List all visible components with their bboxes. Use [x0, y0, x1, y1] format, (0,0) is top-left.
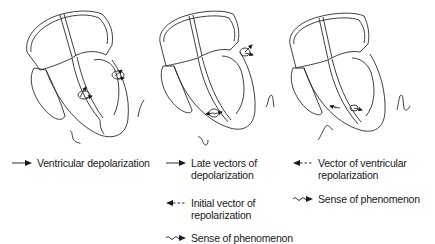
- legend-label: Ventricular depolarization: [37, 157, 150, 169]
- ecg-wave-1a: [138, 100, 144, 117]
- ecg-wave-3b: [397, 95, 410, 110]
- legend-ventricular-depolarization: Ventricular depolarization: [11, 157, 150, 169]
- dashed-arrow-left-icon: [292, 157, 314, 169]
- wavy-arrow-icon: [292, 193, 314, 205]
- legend-initial-vector: Initial vector of repolarization: [165, 197, 255, 221]
- legend-vector-ventricular-repol: Vector of ventricular repolarization: [292, 157, 407, 181]
- solid-arrow-icon: [165, 157, 187, 169]
- legend-label: Sense of phenomenon: [318, 193, 420, 205]
- ecg-wave-3a: [318, 125, 333, 140]
- heart-1: [27, 11, 144, 144]
- legend-label: Vector of ventricular repolarization: [318, 157, 407, 181]
- dashed-arrow-left-icon: [165, 197, 187, 209]
- legend-label: Late vectors of depolarization: [191, 157, 257, 181]
- ecg-wave-2a: [198, 137, 208, 145]
- heart-3: [290, 13, 410, 140]
- ecg-wave-1b: [70, 131, 80, 144]
- solid-arrow-icon: [11, 157, 33, 169]
- ecg-wave-2b: [266, 95, 274, 107]
- legend-late-vectors: Late vectors of depolarization: [165, 157, 257, 181]
- legend-label: Sense of phenomenon: [191, 232, 293, 244]
- heart-2: [160, 11, 274, 145]
- legend-label: Initial vector of repolarization: [191, 197, 255, 221]
- wavy-arrow-icon: [165, 232, 187, 244]
- legend-sense-1: Sense of phenomenon: [165, 232, 293, 244]
- legend-sense-2: Sense of phenomenon: [292, 193, 420, 205]
